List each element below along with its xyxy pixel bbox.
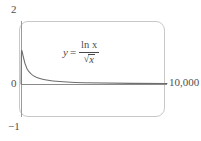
x-axis-line: [21, 84, 167, 85]
y-axis-min-label: −1: [8, 121, 20, 132]
y-axis-line: [21, 21, 22, 117]
y-axis-zero-label: 0: [11, 78, 17, 89]
equation-equals-sign: =: [70, 47, 76, 58]
graph-figure: 2 0 −1 10,000 y = ln x √x: [0, 0, 201, 141]
equation-fraction: ln x √x: [79, 40, 99, 65]
equation-annotation: y = ln x √x: [63, 40, 99, 65]
equation-lhs: y: [63, 47, 68, 58]
plot-window-frame: [19, 21, 165, 117]
radicand: x: [88, 54, 95, 66]
fraction-denominator: √x: [81, 53, 96, 66]
x-axis-max-label: 10,000: [169, 77, 199, 88]
y-axis-max-label: 2: [11, 4, 17, 15]
fraction-numerator: ln x: [79, 40, 99, 52]
